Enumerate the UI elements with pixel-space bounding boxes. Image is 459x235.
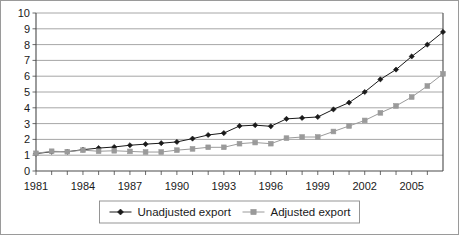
- data-point: [159, 150, 164, 155]
- data-point: [331, 129, 336, 134]
- x-tick-label: 2005: [399, 180, 423, 192]
- data-point: [221, 130, 226, 135]
- data-point: [143, 142, 148, 147]
- chart-legend: Unadjusted exportAdjusted export: [100, 201, 360, 223]
- y-tick-label: 4: [24, 102, 30, 114]
- x-tick-label: 1999: [306, 180, 330, 192]
- y-tick-label: 10: [18, 7, 30, 19]
- legend-marker-square-icon: [251, 209, 256, 214]
- x-tick-marks: [36, 171, 427, 175]
- y-tick-label: 1: [24, 149, 30, 161]
- series-1: [33, 29, 445, 156]
- chart-area: 012345678910 198119841987199019931996199…: [1, 1, 458, 234]
- gridlines: [36, 13, 443, 155]
- x-tick-label: 1984: [71, 180, 95, 192]
- x-axis-tick-labels: 198119841987199019931996199920022005: [24, 180, 424, 192]
- data-point: [159, 141, 164, 146]
- x-tick-label: 1993: [212, 180, 236, 192]
- y-axis-tick-labels: 012345678910: [18, 7, 30, 177]
- data-point: [284, 136, 289, 141]
- data-point: [253, 140, 258, 145]
- y-tick-label: 8: [24, 39, 30, 51]
- data-point: [268, 141, 273, 146]
- y-tick-label: 5: [24, 86, 30, 98]
- y-tick-label: 0: [24, 165, 30, 177]
- data-point: [221, 145, 226, 150]
- data-point: [347, 124, 352, 129]
- data-point: [315, 114, 320, 119]
- data-point: [175, 148, 180, 153]
- data-point: [81, 148, 86, 153]
- data-point: [49, 149, 54, 154]
- data-point: [300, 135, 305, 140]
- data-point: [425, 84, 430, 89]
- y-tick-label: 3: [24, 118, 30, 130]
- data-point: [143, 150, 148, 155]
- y-tick-label: 2: [24, 133, 30, 145]
- y-tick-label: 9: [24, 23, 30, 35]
- data-point: [237, 123, 242, 128]
- data-series-layer: [33, 29, 445, 156]
- data-point: [96, 149, 101, 154]
- data-point: [127, 143, 132, 148]
- legend-label: Unadjusted export: [138, 206, 232, 218]
- data-point: [378, 110, 383, 115]
- data-point: [441, 71, 446, 76]
- x-tick-label: 1981: [24, 180, 48, 192]
- data-point: [394, 104, 399, 109]
- data-point: [268, 124, 273, 129]
- data-point: [206, 132, 211, 137]
- data-point: [362, 118, 367, 123]
- line-chart: 012345678910 198119841987199019931996199…: [1, 1, 458, 234]
- y-tick-label: 7: [24, 54, 30, 66]
- data-point: [190, 147, 195, 152]
- data-point: [190, 136, 195, 141]
- chart-figure: 012345678910 198119841987199019931996199…: [0, 0, 459, 235]
- data-point: [237, 141, 242, 146]
- data-point: [65, 149, 70, 154]
- data-point: [284, 116, 289, 121]
- x-tick-label: 1990: [165, 180, 189, 192]
- data-point: [34, 151, 39, 156]
- series-line: [36, 32, 443, 154]
- data-point: [174, 139, 179, 144]
- legend-label: Adjusted export: [271, 206, 352, 218]
- data-point: [315, 135, 320, 140]
- data-point: [409, 95, 414, 100]
- x-tick-label: 1996: [259, 180, 283, 192]
- data-point: [300, 115, 305, 120]
- x-tick-label: 1987: [118, 180, 142, 192]
- data-point: [112, 148, 117, 153]
- series-2: [34, 71, 446, 155]
- data-point: [128, 149, 133, 154]
- y-tick-label: 6: [24, 70, 30, 82]
- data-point: [206, 145, 211, 150]
- x-tick-label: 2002: [352, 180, 376, 192]
